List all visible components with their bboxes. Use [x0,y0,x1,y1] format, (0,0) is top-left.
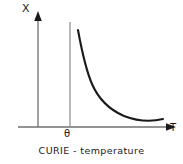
curie-susceptibility-figure: X T θ CURIE - temperature [0,0,183,164]
plot-area [0,0,183,164]
figure-caption: CURIE - temperature [0,145,183,156]
x-axis-label: T [170,122,176,133]
y-axis-arrowhead [34,11,42,21]
theta-tick-label: θ [64,128,70,139]
y-axis-label: X [22,2,30,15]
susceptibility-curve [78,30,163,121]
